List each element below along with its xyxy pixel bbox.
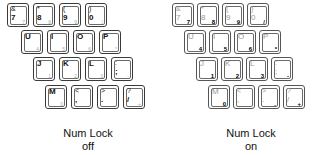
key-shift-legend: ( [226,5,228,12]
key-main-legend: 8 [201,14,205,22]
key-numpad-legend: 1 [211,73,214,79]
caption-line2: off [48,140,128,153]
key-numpad-legend: 7 [22,19,25,25]
key-shift-legend: ( [63,5,65,12]
key-shift-legend: < [237,87,241,94]
keycap-u: U4 [21,30,43,54]
key-shift-legend: ? [127,87,131,94]
key-main-legend: P [263,33,268,41]
key-numpad-legend: 4 [199,46,202,52]
keycap-8: *88 [197,3,219,27]
keycap-j: J1 [196,57,218,81]
keycap-0: )0/ [247,3,269,27]
key-numpad-legend: 9 [74,19,77,25]
keycap-: :;- [111,57,133,81]
key-numpad-legend: 0 [60,101,63,107]
key-main-legend: . [101,96,103,104]
key-numpad-legend: . [274,101,276,107]
key-main-legend: O [77,33,83,41]
keycap-u: U4 [184,30,206,54]
keycap-p: P* [259,30,281,54]
key-numpad-legend: / [263,19,265,25]
keycap-o: O6 [73,30,95,54]
key-main-legend: / [127,96,129,104]
keycap-9: (99 [59,3,81,27]
key-shift-legend: : [275,59,277,66]
key-main-legend: U [25,33,31,41]
key-numpad-legend: / [102,19,103,25]
key-numpad-legend: 4 [36,46,39,52]
key-numpad-legend: + [297,101,301,107]
keycap-m: M0 [45,85,67,109]
keycap-i: I5 [209,30,231,54]
key-numpad-legend: 7 [187,19,190,25]
keycap-: >.. [258,85,280,109]
key-numpad-legend: 5 [62,46,65,52]
key-numpad-legend: 3 [100,73,103,79]
key-main-legend: 9 [226,14,230,22]
key-shift-legend: < [75,87,79,94]
key-main-legend: , [75,96,77,104]
key-main-legend: 7 [11,14,15,22]
key-main-legend: K [225,60,230,68]
key-shift-legend: > [262,87,266,94]
key-numpad-legend: 2 [74,73,77,79]
key-main-legend: M [49,88,56,96]
key-shift-legend: : [115,59,117,66]
key-shift-legend: & [176,5,181,12]
key-shift-legend: ) [251,5,253,12]
key-numpad-legend: 6 [249,46,252,52]
key-main-legend: 8 [37,14,41,22]
keycap-: ?/+ [283,85,305,109]
key-numpad-legend: . [114,101,115,107]
caption-line1: Num Lock [48,127,128,140]
keycap-j: J1 [33,57,55,81]
keycap-l: L3 [246,57,268,81]
key-shift-legend: & [11,5,16,12]
keycap-: :;- [271,57,293,81]
keycap-0: )0/ [85,3,107,27]
key-shift-legend: > [101,87,105,94]
keycap-9: (99 [222,3,244,27]
keycap-7: &77 [7,3,29,27]
key-main-legend: ; [115,68,118,76]
numlock-on-caption: Num Lock on [211,127,291,153]
key-main-legend: K [63,60,69,68]
key-main-legend: 0 [251,14,255,22]
keycap-p: P* [99,30,121,54]
key-main-legend: L [250,60,254,68]
key-main-legend: , [237,96,239,104]
key-main-legend: I [51,33,53,41]
caption-line2: on [211,140,291,153]
keycap-l: L3 [85,57,107,81]
key-numpad-legend: 8 [212,19,215,25]
key-numpad-legend: * [275,46,277,52]
keycap-: ?/+ [123,85,145,109]
key-numpad-legend: 1 [48,73,51,79]
numlock-off-caption: Num Lock off [48,127,128,153]
keycap-k: K2 [221,57,243,81]
keycap-7: &77 [172,3,194,27]
key-shift-legend: ) [89,5,91,12]
keycap-: >.. [97,85,119,109]
key-numpad-legend: * [115,46,117,52]
keycap-m: M0 [208,85,230,109]
key-shift-legend: ? [287,87,291,94]
key-main-legend: P [103,33,108,41]
key-numpad-legend: 0 [223,101,226,107]
keycap-: <, [233,85,255,109]
key-numpad-legend: 8 [48,19,51,25]
key-main-legend: O [238,33,244,41]
key-main-legend: U [188,33,194,41]
key-numpad-legend: - [287,73,289,79]
keycap-: <, [71,85,93,109]
key-main-legend: ; [275,68,277,76]
key-numpad-legend: + [138,101,141,107]
key-main-legend: I [213,33,215,41]
key-main-legend: J [37,60,41,68]
key-numpad-legend: - [127,73,129,79]
key-shift-legend: * [201,5,204,12]
keycap-8: *88 [33,3,55,27]
key-numpad-legend: 9 [237,19,240,25]
key-main-legend: J [200,60,204,68]
